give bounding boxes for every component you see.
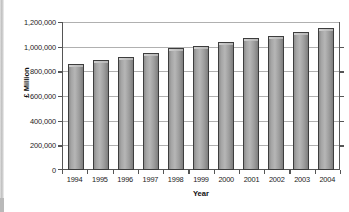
x-tick-label: 2001 xyxy=(239,175,264,184)
bar xyxy=(243,38,259,170)
x-axis-tick xyxy=(87,170,88,174)
y-axis-tick-right xyxy=(340,47,344,48)
bar xyxy=(193,46,209,170)
y-tick-label: 1,200,000 xyxy=(24,18,56,27)
page-edge-strip-bottom xyxy=(0,198,4,212)
bar xyxy=(268,36,284,170)
x-axis-tick xyxy=(289,170,290,174)
bar-slot xyxy=(113,22,138,170)
y-axis-tick-right xyxy=(340,96,344,97)
x-axis-tick xyxy=(239,170,240,174)
x-tick-label: 2002 xyxy=(264,175,289,184)
x-axis-tick xyxy=(264,170,265,174)
y-axis-tick xyxy=(58,71,62,72)
y-tick-label: 600,000 xyxy=(30,92,56,101)
x-tick-label: 1998 xyxy=(163,175,188,184)
x-tick-label: 1994 xyxy=(62,175,87,184)
y-axis-tick-right xyxy=(340,71,344,72)
x-axis-ticks xyxy=(62,170,340,174)
caption-sliver xyxy=(10,207,330,212)
x-axis-title: Year xyxy=(62,189,340,198)
y-axis-tick xyxy=(58,47,62,48)
bar-slot xyxy=(214,22,239,170)
x-axis-tick xyxy=(163,170,164,174)
x-axis-tick xyxy=(340,170,341,174)
bar-slot xyxy=(88,22,113,170)
x-tick-label: 2000 xyxy=(214,175,239,184)
bar xyxy=(318,28,334,170)
y-tick-label: 800,000 xyxy=(30,67,56,76)
bar-series xyxy=(63,22,339,170)
bar xyxy=(293,32,309,170)
y-axis-tick-labels: 1,200,000 1,000,000 800,000 600,000 400,… xyxy=(0,22,56,170)
y-axis-tick xyxy=(58,22,62,23)
x-tick-label: 1997 xyxy=(138,175,163,184)
bar-slot xyxy=(264,22,289,170)
x-axis-tick xyxy=(214,170,215,174)
y-axis-tick xyxy=(58,145,62,146)
y-tick-label: 1,000,000 xyxy=(24,42,56,51)
plot-area xyxy=(62,22,340,170)
bar-slot xyxy=(163,22,188,170)
bar-slot xyxy=(239,22,264,170)
chart-figure: £ Million 1,200,000 1,000,000 800,000 60… xyxy=(0,0,349,212)
x-axis-tick xyxy=(113,170,114,174)
bar xyxy=(143,53,159,170)
x-axis-tick xyxy=(138,170,139,174)
bar xyxy=(118,57,134,170)
x-tick-label: 2004 xyxy=(315,175,340,184)
x-axis-tick-labels: 1994199519961997199819992000200120022003… xyxy=(62,175,340,184)
y-tick-label: 400,000 xyxy=(30,116,56,125)
x-tick-label: 2003 xyxy=(289,175,314,184)
y-axis-tick xyxy=(58,121,62,122)
bar xyxy=(68,64,84,170)
bar-slot xyxy=(138,22,163,170)
bar-slot xyxy=(188,22,213,170)
y-axis-tick-right xyxy=(340,145,344,146)
bar-slot xyxy=(63,22,88,170)
x-tick-label: 1996 xyxy=(113,175,138,184)
bar-slot xyxy=(314,22,339,170)
y-tick-label: 200,000 xyxy=(30,141,56,150)
x-axis-tick xyxy=(188,170,189,174)
bar xyxy=(168,48,184,170)
x-tick-label: 1999 xyxy=(188,175,213,184)
y-tick-label: 0 xyxy=(52,166,56,175)
bar xyxy=(93,60,109,170)
x-tick-label: 1995 xyxy=(87,175,112,184)
x-axis-tick xyxy=(315,170,316,174)
y-axis-tick-right xyxy=(340,121,344,122)
bar xyxy=(218,42,234,170)
y-axis-tick xyxy=(58,96,62,97)
x-axis-tick xyxy=(62,170,63,174)
bar-slot xyxy=(289,22,314,170)
